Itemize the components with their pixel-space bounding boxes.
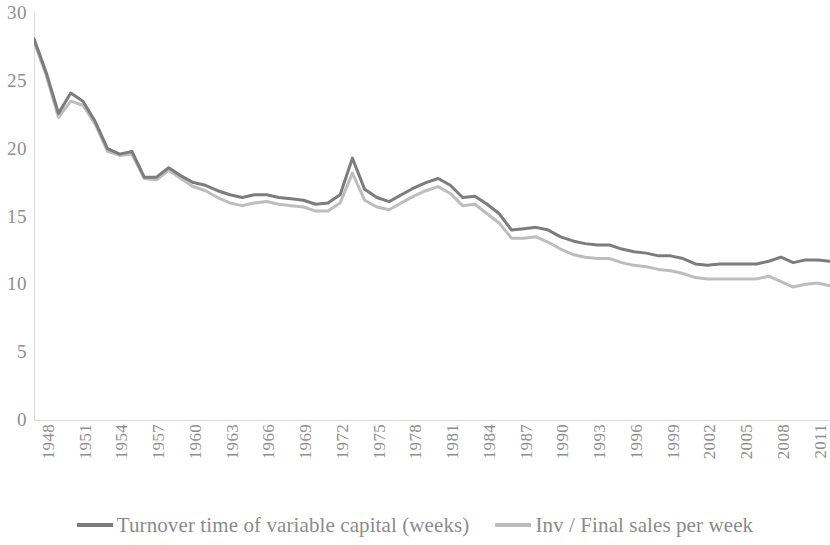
y-tick-label: 20: [0, 139, 34, 158]
legend-label: Inv / Final sales per week: [535, 514, 753, 536]
y-tick-label: 15: [0, 207, 34, 226]
x-tick-label: 1966: [260, 424, 277, 459]
y-tick-label: 10: [0, 274, 34, 293]
x-tick-label: 1960: [187, 424, 204, 459]
x-tick-label: 1975: [371, 424, 388, 459]
x-tick-label: 1990: [554, 424, 571, 459]
series-line: [34, 39, 830, 266]
x-tick-label: 1969: [297, 424, 314, 459]
x-tick-label: 1993: [591, 424, 608, 459]
legend-line-icon: [495, 523, 531, 527]
x-tick-label: 1999: [665, 424, 682, 459]
plot-area: [34, 13, 830, 420]
x-tick-label: 1981: [444, 424, 461, 459]
x-tick-label: 2011: [812, 424, 829, 459]
x-tick-label: 1984: [481, 424, 498, 459]
y-tick-label: 25: [0, 71, 34, 90]
x-tick-label: 1972: [334, 424, 351, 459]
line-chart: 302520151050 194819511954195719601963196…: [0, 0, 830, 545]
series-line: [34, 41, 830, 287]
legend-label: Turnover time of variable capital (weeks…: [117, 514, 470, 536]
x-tick-label: 2005: [738, 424, 755, 459]
x-tick-label: 1978: [407, 424, 424, 459]
y-tick-label: 30: [0, 3, 34, 22]
x-axis-line: [34, 420, 830, 421]
y-tick-label: 0: [0, 410, 34, 429]
x-tick-label: 1951: [77, 424, 94, 459]
chart-legend: Turnover time of variable capital (weeks…: [0, 505, 830, 545]
legend-line-icon: [77, 523, 113, 527]
x-tick-label: 1948: [40, 424, 57, 459]
y-tick-label: 5: [0, 342, 34, 361]
x-axis-tick-labels: 1948195119541957196019631966196919721975…: [34, 424, 830, 504]
x-tick-label: 2008: [775, 424, 792, 459]
x-tick-label: 1963: [224, 424, 241, 459]
x-tick-label: 1957: [150, 424, 167, 459]
x-tick-label: 1987: [518, 424, 535, 459]
x-tick-label: 2002: [701, 424, 718, 459]
legend-item[interactable]: Inv / Final sales per week: [495, 514, 753, 536]
series-svg: [34, 13, 830, 420]
x-tick-label: 1954: [113, 424, 130, 459]
x-tick-label: 1996: [628, 424, 645, 459]
legend-item[interactable]: Turnover time of variable capital (weeks…: [77, 514, 470, 536]
y-axis-tick-labels: 302520151050: [0, 0, 34, 545]
